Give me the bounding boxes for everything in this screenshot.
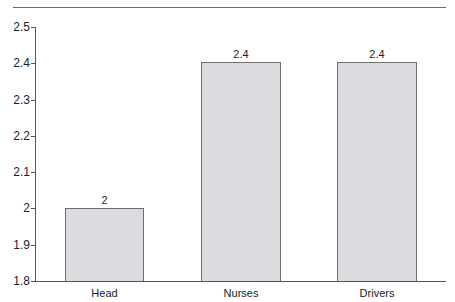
bar-value-label: 2.4 [337,49,417,60]
y-tick-mark [31,136,35,137]
y-tick-mark [31,172,35,173]
y-tick-label: 2.3 [13,94,30,106]
y-tick-mark [31,208,35,209]
y-tick-label: 2.5 [13,21,30,33]
x-axis [35,281,446,282]
top-rule [13,7,446,8]
y-tick-mark [31,100,35,101]
y-tick-mark [31,27,35,28]
y-tick-label: 1.8 [13,275,30,287]
x-category-label: Head [65,287,144,299]
bar-head [65,208,144,281]
y-tick-mark [31,63,35,64]
bar-nurses [201,62,281,281]
y-tick-label: 2.4 [13,57,30,69]
y-axis [35,27,36,281]
y-tick-mark [31,245,35,246]
bar-value-label: 2.4 [201,49,281,60]
y-tick-label: 2.1 [13,166,30,178]
bar-drivers [337,62,417,281]
y-tick-label: 2 [23,202,30,214]
x-category-label: Drivers [337,287,417,299]
y-tick-label: 1.9 [13,239,30,251]
bar-value-label: 2 [65,195,144,206]
x-category-label: Nurses [201,287,281,299]
y-tick-label: 2.2 [13,130,30,142]
y-tick-mark [31,281,35,282]
